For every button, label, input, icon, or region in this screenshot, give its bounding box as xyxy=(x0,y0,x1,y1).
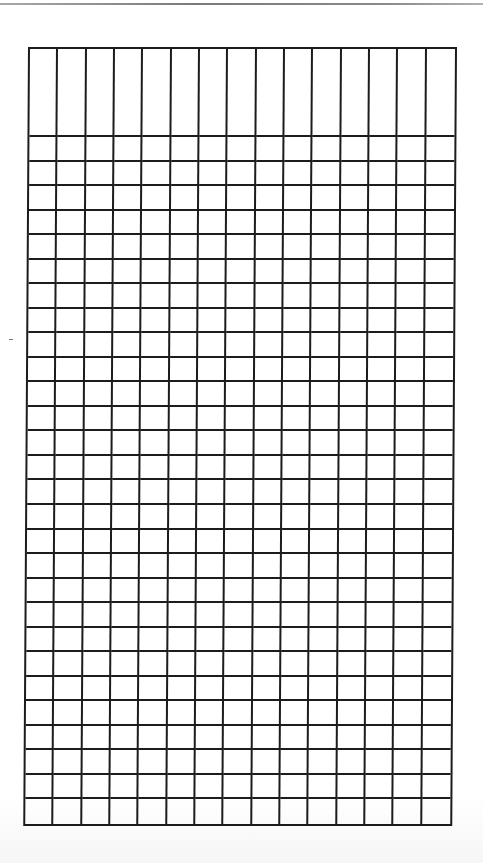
grid-header-cell xyxy=(398,49,427,137)
grid-cell xyxy=(139,799,167,824)
grid-cell xyxy=(396,456,424,481)
grid-cell xyxy=(425,284,453,309)
grid-cell xyxy=(28,333,56,358)
grid-cell xyxy=(366,603,394,628)
grid-cell xyxy=(422,799,450,824)
grid-cell xyxy=(423,628,451,653)
grid-cell xyxy=(368,358,396,383)
grid-cell xyxy=(365,775,393,800)
grid-cell xyxy=(114,260,142,285)
grid-cell xyxy=(422,701,450,726)
grid-cell xyxy=(112,431,140,456)
grid-cell xyxy=(337,750,365,775)
grid-cell xyxy=(26,603,54,628)
grid-header-cell xyxy=(199,49,228,137)
grid-cell xyxy=(281,750,309,775)
grid-cell xyxy=(422,726,450,751)
grid-cell xyxy=(338,628,366,653)
grid-cell xyxy=(282,554,310,579)
grid-cell xyxy=(28,407,56,432)
grid-cell xyxy=(310,579,338,604)
grid-cell xyxy=(312,211,340,236)
grid-cell xyxy=(396,333,424,358)
grid-cell xyxy=(282,456,310,481)
grid-cell xyxy=(84,382,112,407)
grid-cell xyxy=(397,211,425,236)
grid-cell xyxy=(255,235,283,260)
grid-cell xyxy=(83,652,111,677)
grid-cell xyxy=(28,284,56,309)
grid-cell xyxy=(368,309,396,334)
grid-cell xyxy=(57,284,85,309)
grid-cell xyxy=(54,677,82,702)
grid-cell xyxy=(56,358,84,383)
grid-cell xyxy=(141,382,169,407)
grid-cell xyxy=(170,358,198,383)
grid-cell xyxy=(112,554,140,579)
grid-cell xyxy=(142,260,170,285)
grid-cell xyxy=(283,407,311,432)
grid-cell xyxy=(339,456,367,481)
scan-speck xyxy=(9,339,13,340)
grid-cell xyxy=(55,603,83,628)
grid-cell xyxy=(84,431,112,456)
grid-cell xyxy=(310,603,338,628)
grid-cell xyxy=(309,701,337,726)
grid-cell xyxy=(168,677,196,702)
grid-cell xyxy=(425,309,453,334)
grid-cell xyxy=(113,407,141,432)
grid-cell xyxy=(196,652,224,677)
grid-cell xyxy=(167,799,195,824)
grid-header-cell xyxy=(86,49,115,137)
grid-cell xyxy=(54,775,82,800)
grid-cell xyxy=(339,530,367,555)
grid-cell xyxy=(228,137,256,162)
grid-cell xyxy=(140,603,168,628)
grid-cell xyxy=(141,480,169,505)
grid-cell xyxy=(26,677,54,702)
grid-cell xyxy=(83,603,111,628)
grid-cell xyxy=(82,775,110,800)
grid-cell xyxy=(29,137,57,162)
grid-cell xyxy=(368,382,396,407)
grid-cell xyxy=(283,358,311,383)
grid-cell xyxy=(224,677,252,702)
grid-cell xyxy=(225,603,253,628)
grid-cell xyxy=(85,309,113,334)
grid-cell xyxy=(167,775,195,800)
grid-cell xyxy=(281,603,309,628)
grid-cell xyxy=(368,284,396,309)
grid-cell xyxy=(25,799,53,824)
grid-cell xyxy=(395,530,423,555)
grid-cell xyxy=(227,235,255,260)
grid-cell xyxy=(397,235,425,260)
grid-cell xyxy=(26,726,54,751)
grid-cell xyxy=(227,186,255,211)
grid-header-cell xyxy=(114,49,143,137)
grid-cell xyxy=(283,309,311,334)
grid-cell xyxy=(396,382,424,407)
grid-cell xyxy=(167,701,195,726)
grid-cell xyxy=(312,309,340,334)
grid-cell xyxy=(224,799,252,824)
grid-cell xyxy=(311,431,339,456)
grid-cell xyxy=(27,456,55,481)
grid-cell xyxy=(82,799,110,824)
grid-cell xyxy=(55,554,83,579)
grid-cell xyxy=(227,162,255,187)
grid-cell xyxy=(85,260,113,285)
grid-cell xyxy=(340,333,368,358)
grid-cell xyxy=(396,358,424,383)
grid-cell xyxy=(199,260,227,285)
grid-cell xyxy=(114,186,142,211)
grid-cell xyxy=(253,603,281,628)
grid-cell xyxy=(339,431,367,456)
grid-cell xyxy=(112,579,140,604)
grid-cell xyxy=(394,750,422,775)
grid-cell xyxy=(84,505,112,530)
grid-cell xyxy=(227,211,255,236)
grid-cell xyxy=(253,652,281,677)
grid-cell xyxy=(341,186,369,211)
grid-cell xyxy=(367,579,395,604)
grid-cell xyxy=(254,530,282,555)
